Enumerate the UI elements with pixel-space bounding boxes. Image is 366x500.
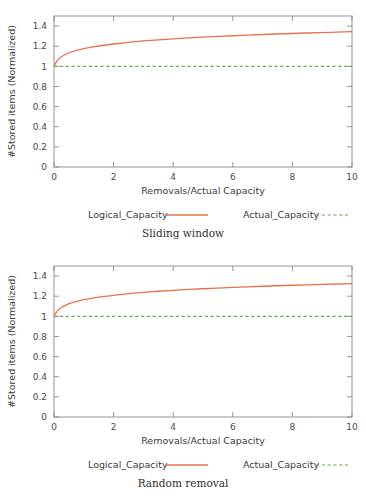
- y-tick-label: 0.6: [33, 102, 48, 112]
- x-tick-label: 8: [290, 422, 296, 432]
- y-tick-label: 0.6: [33, 352, 48, 362]
- x-tick-label: 8: [290, 172, 296, 182]
- chart-panel-bottom: 00.20.40.60.811.21.40246810Removals/Actu…: [0, 250, 366, 500]
- x-tick-label: 0: [51, 172, 57, 182]
- chart-caption: Sliding window: [142, 227, 224, 239]
- chart-svg-bottom: 00.20.40.60.811.21.40246810Removals/Actu…: [0, 250, 366, 500]
- x-tick-label: 4: [170, 172, 176, 182]
- x-tick-label: 10: [346, 422, 358, 432]
- y-tick-label: 0: [41, 162, 47, 172]
- y-tick-label: 0.2: [33, 142, 47, 152]
- y-tick-label: 1.4: [33, 271, 48, 281]
- chart-caption: Random removal: [138, 477, 229, 489]
- y-tick-label: 0.4: [33, 122, 48, 132]
- chart-svg-top: 00.20.40.60.811.21.40246810Removals/Actu…: [0, 0, 366, 250]
- legend-label-actual: Actual_Capacity: [243, 459, 319, 470]
- x-tick-label: 2: [111, 172, 117, 182]
- series-line-logical_capacity: [54, 32, 352, 66]
- y-tick-label: 0: [41, 412, 47, 422]
- y-tick-label: 1.2: [33, 41, 47, 51]
- y-tick-label: 1: [41, 62, 47, 72]
- y-tick-label: 1: [41, 312, 47, 322]
- legend-label-logical: Logical_Capacity: [88, 459, 168, 470]
- plot-frame: [54, 16, 352, 167]
- series-line-logical_capacity: [54, 284, 352, 316]
- y-tick-label: 0.8: [33, 82, 48, 92]
- x-tick-label: 6: [230, 172, 236, 182]
- x-tick-label: 2: [111, 422, 117, 432]
- x-tick-label: 4: [170, 422, 176, 432]
- x-tick-label: 10: [346, 172, 358, 182]
- y-axis-title: #Stored items (Normalized): [6, 275, 17, 408]
- figure-sliding-window: 00.20.40.60.811.21.40246810Removals/Actu…: [0, 0, 366, 250]
- x-tick-label: 6: [230, 422, 236, 432]
- y-tick-label: 1.4: [33, 21, 48, 31]
- legend-label-actual: Actual_Capacity: [243, 209, 319, 220]
- y-tick-label: 0.8: [33, 332, 48, 342]
- y-tick-label: 1.2: [33, 291, 47, 301]
- x-axis-title: Removals/Actual Capacity: [141, 185, 265, 196]
- legend-label-logical: Logical_Capacity: [88, 209, 168, 220]
- chart-panel-top: 00.20.40.60.811.21.40246810Removals/Actu…: [0, 0, 366, 250]
- x-axis-title: Removals/Actual Capacity: [141, 435, 265, 446]
- y-tick-label: 0.2: [33, 392, 47, 402]
- y-tick-label: 0.4: [33, 372, 48, 382]
- x-tick-label: 0: [51, 422, 57, 432]
- y-axis-title: #Stored items (Normalized): [6, 25, 17, 158]
- figure-random-removal: 00.20.40.60.811.21.40246810Removals/Actu…: [0, 250, 366, 500]
